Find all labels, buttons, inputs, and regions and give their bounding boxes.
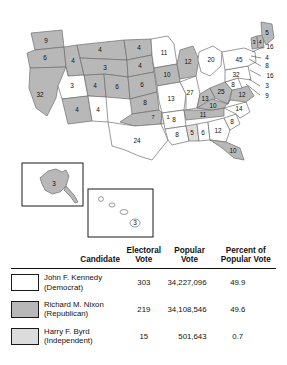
election-results-table: Candidate Electoral Vote Popular Vote Pe…	[11, 246, 276, 350]
hawaii-island-kauai	[99, 197, 104, 202]
callout-label-DE: 3	[265, 82, 269, 89]
candidate-cell: John F. Kennedy (Democrat)	[11, 269, 124, 296]
state-label-SD: 4	[138, 62, 142, 69]
state-label-IN: 13	[201, 95, 209, 102]
callout-label-RI: 4	[265, 54, 269, 61]
state-label-NE: 6	[140, 81, 144, 88]
popular-vote-value: 501,643	[164, 323, 216, 350]
state-label-CO: 6	[115, 83, 119, 90]
popular-vote-value: 34,108,546	[164, 296, 216, 323]
header-popular-line1: Popular	[174, 246, 204, 255]
state-label-NM: 4	[96, 106, 100, 113]
candidate-party: (Republican)	[44, 309, 104, 318]
state-label-VT: 3	[252, 39, 255, 45]
table-row: John F. Kennedy (Democrat) 303 34,227,09…	[11, 269, 276, 296]
state-label-IA: 10	[163, 71, 171, 78]
state-label-WY: 3	[103, 64, 107, 71]
candidate-cell: Harry F. Byrd (Independent)	[11, 323, 124, 350]
state-label-AR: 8	[172, 116, 176, 123]
state-FL	[210, 140, 244, 160]
legend-swatch-byrd	[11, 328, 39, 345]
results-table: Candidate Electoral Vote Popular Vote Pe…	[11, 246, 276, 350]
header-electoral-line1: Electoral	[127, 246, 162, 255]
table-row: Richard M. Nixon (Republican) 219 34,108…	[11, 296, 276, 323]
percent-popular-vote-value: 49.6	[215, 296, 276, 323]
header-electoral-line2: Vote	[135, 255, 152, 264]
state-label-LA: 8	[175, 131, 179, 138]
state-label-SC: 8	[230, 118, 234, 125]
callout-label-NJ: 16	[266, 72, 274, 79]
state-label-NY: 45	[235, 56, 243, 63]
header-candidate: Candidate	[11, 246, 124, 266]
electoral-vote-value: 15	[124, 323, 164, 350]
table-row: Harry F. Byrd (Independent) 15 501,643 0…	[11, 323, 276, 350]
state-label-MT: 4	[98, 46, 102, 53]
state-label-MO: 13	[167, 95, 175, 102]
state-label-FL: 10	[229, 147, 237, 154]
callout-label-MD: 9	[265, 92, 269, 99]
candidate-party: (Independent)	[44, 336, 93, 345]
state-label-WV: 8	[231, 81, 235, 88]
state-label-CA: 32	[36, 91, 44, 98]
header-popular-line2: Vote	[181, 255, 198, 264]
state-label-AZ: 4	[75, 106, 79, 113]
candidate-cell: Richard M. Nixon (Republican)	[11, 296, 124, 323]
legend-swatch-kennedy	[11, 274, 39, 291]
state-label-UT: 4	[93, 82, 97, 89]
leader-line-DE	[249, 79, 260, 86]
inset-label-AK: 3	[52, 180, 56, 187]
state-label-MS: 5	[190, 129, 194, 136]
state-label-KS: 8	[143, 99, 147, 106]
header-popular-vote: Popular Vote	[164, 246, 216, 266]
state-MT	[77, 40, 127, 60]
callout-label-MA: 16	[266, 43, 274, 50]
state-label-WA: 9	[44, 37, 48, 44]
header-percent-popular-vote: Percent of Popular Vote	[215, 246, 276, 266]
state-label-OK-byrd: 1	[166, 114, 169, 120]
table-header-row: Candidate Electoral Vote Popular Vote Pe…	[11, 246, 276, 266]
percent-popular-vote-value: 49.9	[215, 269, 276, 296]
state-label-NC: 14	[235, 105, 243, 112]
state-label-MN: 11	[161, 49, 168, 56]
electoral-vote-value: 219	[124, 296, 164, 323]
state-OK-nixon	[120, 110, 162, 126]
table-body: John F. Kennedy (Democrat) 303 34,227,09…	[11, 269, 276, 350]
leader-line-NJ	[250, 70, 261, 76]
electoral-map-figure: 9 6 4 4 4 4 3 6 3 4 32 4 6 8 4 7 1 24 11…	[0, 0, 287, 240]
hawaii-island-oahu	[109, 203, 115, 207]
inset-label-HI: 3	[133, 219, 137, 226]
header-electoral-vote: Electoral Vote	[124, 246, 164, 266]
header-percent-line2: Popular Vote	[221, 255, 271, 264]
popular-vote-value: 34,227,096	[164, 269, 216, 296]
hawaii-island-maui	[120, 210, 128, 215]
electoral-vote-value: 303	[124, 269, 164, 296]
callout-label-CT: 8	[265, 62, 269, 69]
state-label-OH: 25	[217, 88, 225, 95]
state-label-NH: 4	[258, 39, 261, 45]
state-label-OK-nixon: 7	[151, 114, 154, 120]
table-head: Candidate Electoral Vote Popular Vote Pe…	[11, 246, 276, 269]
state-label-VA: 12	[238, 91, 246, 98]
state-label-MI: 20	[207, 56, 215, 63]
state-label-ND: 4	[137, 44, 141, 51]
state-label-IL: 27	[186, 89, 194, 96]
state-label-AL: 6	[201, 129, 205, 136]
candidate-name: Harry F. Byrd	[44, 327, 93, 336]
state-label-NV: 3	[70, 82, 74, 89]
state-label-TX: 24	[133, 137, 141, 144]
state-label-ME: 5	[265, 29, 269, 36]
percent-popular-vote-value: 0.7	[215, 323, 276, 350]
candidate-party: (Democrat)	[44, 283, 102, 292]
us-electoral-map: 9 6 4 4 4 4 3 6 3 4 32 4 6 8 4 7 1 24 11…	[0, 0, 287, 240]
state-label-GA: 12	[214, 127, 222, 134]
candidate-name: Richard M. Nixon	[44, 300, 104, 309]
state-label-ID: 4	[71, 57, 75, 64]
legend-swatch-nixon	[11, 301, 39, 318]
state-label-TN: 11	[200, 111, 207, 118]
header-percent-line1: Percent of	[226, 246, 266, 255]
candidate-name: John F. Kennedy	[44, 273, 102, 282]
state-label-OR: 6	[43, 54, 47, 61]
state-label-PA: 32	[232, 71, 240, 78]
state-label-KY: 10	[209, 102, 217, 109]
state-label-WI: 12	[184, 58, 192, 65]
